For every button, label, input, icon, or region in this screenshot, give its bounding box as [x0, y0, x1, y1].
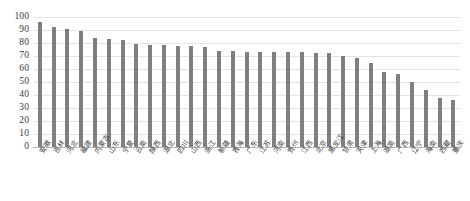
bar-series	[33, 17, 460, 147]
bar[interactable]	[79, 31, 83, 147]
bar-chart: 1009080706050403020100 安徽吉林河北福建内蒙古山东宁夏云南…	[0, 0, 470, 201]
y-axis-tick-label: 50	[19, 77, 29, 87]
bar[interactable]	[189, 46, 193, 147]
y-axis-tick-label: 80	[19, 38, 29, 48]
bar[interactable]	[410, 82, 414, 147]
x-label-slot: 青海	[226, 149, 240, 201]
bar-slot	[254, 17, 268, 147]
bar-slot	[309, 17, 323, 147]
y-axis-tick-label: 20	[19, 116, 29, 126]
y-axis-tick-label: 40	[19, 90, 29, 100]
bar[interactable]	[327, 53, 331, 147]
bar[interactable]	[424, 90, 428, 147]
bar-slot	[281, 17, 295, 147]
x-label-slot: 辽宁	[405, 149, 419, 201]
x-label-slot: 吉林	[47, 149, 61, 201]
bar-slot	[322, 17, 336, 147]
bar[interactable]	[272, 52, 276, 147]
bar-slot	[33, 17, 47, 147]
x-label-slot: 江苏	[254, 149, 268, 201]
x-label-slot: 广西	[391, 149, 405, 201]
x-label-slot: 甘肃	[336, 149, 350, 201]
x-label-slot: 安徽	[33, 149, 47, 201]
bar[interactable]	[65, 29, 69, 147]
bar-slot	[446, 17, 460, 147]
bar[interactable]	[217, 51, 221, 147]
bar-slot	[171, 17, 185, 147]
x-label-slot: 上海	[364, 149, 378, 201]
bar-slot	[226, 17, 240, 147]
bar[interactable]	[245, 52, 249, 147]
bar-slot	[198, 17, 212, 147]
x-label-slot: 湖南	[378, 149, 392, 201]
x-label-slot: 黑龙江	[322, 149, 336, 201]
bar-slot	[364, 17, 378, 147]
x-label-slot: 山东	[102, 149, 116, 201]
x-label-slot: 北京	[309, 149, 323, 201]
y-axis-tick-label: 10	[19, 129, 29, 139]
bar-slot	[129, 17, 143, 147]
bar-slot	[336, 17, 350, 147]
bar[interactable]	[121, 40, 125, 147]
bar[interactable]	[93, 38, 97, 147]
x-label-slot: 云南	[129, 149, 143, 201]
bar[interactable]	[134, 44, 138, 147]
bar-slot	[433, 17, 447, 147]
bar-slot	[378, 17, 392, 147]
y-axis-tick-label: 30	[19, 103, 29, 113]
x-label-slot: 天津	[350, 149, 364, 201]
x-label-slot: 广东	[240, 149, 254, 201]
bar[interactable]	[107, 39, 111, 147]
bar[interactable]	[286, 52, 290, 147]
bar[interactable]	[355, 58, 359, 147]
bar-slot	[295, 17, 309, 147]
y-axis-tick-label: 60	[19, 64, 29, 74]
bar-slot	[116, 17, 130, 147]
x-label-slot: 西藏	[433, 149, 447, 201]
x-label-slot: 浙江	[198, 149, 212, 201]
bar[interactable]	[300, 52, 304, 147]
bar[interactable]	[203, 47, 207, 147]
bar-slot	[143, 17, 157, 147]
x-label-slot: 河南	[267, 149, 281, 201]
bar[interactable]	[258, 52, 262, 147]
bar-slot	[74, 17, 88, 147]
bar[interactable]	[314, 53, 318, 147]
x-label-slot: 新疆	[212, 149, 226, 201]
bar[interactable]	[148, 45, 152, 147]
bar[interactable]	[369, 63, 373, 148]
bar-slot	[61, 17, 75, 147]
bar[interactable]	[176, 46, 180, 147]
bar[interactable]	[162, 45, 166, 147]
x-label-slot: 江西	[295, 149, 309, 201]
x-label-slot: 贵州	[281, 149, 295, 201]
plot-area	[33, 17, 460, 147]
bar-slot	[405, 17, 419, 147]
y-axis-tick-labels: 1009080706050403020100	[0, 17, 29, 147]
y-axis-tick-label: 90	[19, 25, 29, 35]
bar-slot	[212, 17, 226, 147]
bar[interactable]	[451, 100, 455, 147]
x-label-slot: 宁夏	[116, 149, 130, 201]
bar-slot	[350, 17, 364, 147]
x-label-slot: 重庆	[446, 149, 460, 201]
y-axis-tick-label: 70	[19, 51, 29, 61]
y-axis-tick-label: 100	[14, 12, 29, 22]
x-label-slot: 河北	[61, 149, 75, 201]
bar-slot	[102, 17, 116, 147]
x-label-slot: 湖北	[157, 149, 171, 201]
x-label-slot: 山西	[185, 149, 199, 201]
bar-slot	[157, 17, 171, 147]
x-label-slot: 陕西	[143, 149, 157, 201]
bar[interactable]	[52, 27, 56, 147]
bar[interactable]	[438, 98, 442, 147]
bar[interactable]	[341, 56, 345, 147]
bar-slot	[240, 17, 254, 147]
bar-slot	[185, 17, 199, 147]
bar[interactable]	[382, 72, 386, 147]
bar[interactable]	[396, 74, 400, 147]
bar-slot	[419, 17, 433, 147]
bar-slot	[391, 17, 405, 147]
bar[interactable]	[231, 51, 235, 147]
bar[interactable]	[38, 22, 42, 147]
